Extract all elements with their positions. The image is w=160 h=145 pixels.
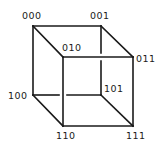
vertex-label-000: 000 bbox=[22, 11, 42, 21]
vertex-label-001: 001 bbox=[90, 11, 110, 21]
edge-100-110 bbox=[33, 95, 63, 126]
vertex-label-110: 110 bbox=[56, 131, 76, 141]
cube-diagram bbox=[0, 0, 160, 145]
edge-000-010 bbox=[33, 26, 63, 57]
edge-001-011 bbox=[101, 26, 133, 57]
vertex-label-011: 011 bbox=[136, 54, 156, 64]
vertex-label-010: 010 bbox=[62, 43, 82, 53]
edge-101-111 bbox=[101, 95, 133, 126]
vertex-label-101: 101 bbox=[104, 84, 124, 94]
vertex-label-111: 111 bbox=[126, 131, 146, 141]
vertex-label-100: 100 bbox=[8, 91, 28, 101]
